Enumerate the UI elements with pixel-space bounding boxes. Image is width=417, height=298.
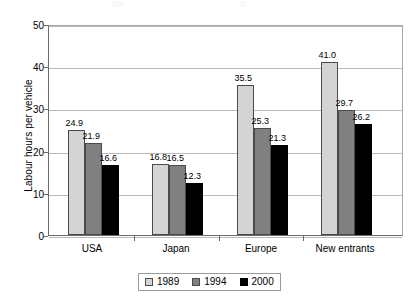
bar — [68, 130, 85, 235]
bar-value-label: 21.9 — [83, 131, 101, 141]
bar-value-label: 12.3 — [184, 171, 202, 181]
bar-chart-figure: Labour hours per vehicle 01020304050 24.… — [0, 0, 417, 298]
legend-swatch-icon — [192, 278, 200, 286]
y-tick-label-0: 0 — [4, 231, 44, 242]
y-tick-label-20: 20 — [4, 146, 44, 157]
bar-value-label: 26.2 — [353, 112, 371, 122]
x-tick-mark — [303, 236, 304, 241]
x-category-label: New entrants — [316, 243, 375, 254]
x-category-label: Europe — [245, 243, 277, 254]
legend-label: 1989 — [157, 276, 179, 287]
bar-value-label: 25.3 — [252, 116, 270, 126]
y-axis-ticks: 01020304050 — [0, 0, 44, 298]
legend-swatch-icon — [240, 278, 248, 286]
bar — [186, 183, 203, 235]
x-category-label: USA — [82, 243, 103, 254]
chart-legend: 198919942000 — [138, 273, 281, 291]
bar-value-label: 16.6 — [100, 153, 118, 163]
bar — [355, 124, 372, 235]
bar-value-label: 35.5 — [235, 73, 253, 83]
legend-item: 2000 — [240, 276, 274, 287]
bar — [254, 128, 271, 235]
bar-group: 35.525.321.3 — [237, 26, 288, 235]
bar — [152, 164, 169, 235]
bar-value-label: 24.9 — [66, 118, 84, 128]
y-tick-label-40: 40 — [4, 62, 44, 73]
legend-label: 1994 — [204, 276, 226, 287]
y-tick-label-30: 30 — [4, 104, 44, 115]
gridline-0 — [49, 237, 402, 238]
legend-label: 2000 — [252, 276, 274, 287]
y-tick-label-10: 10 — [4, 188, 44, 199]
bar — [237, 85, 254, 235]
bar — [102, 165, 119, 235]
bar — [338, 110, 355, 235]
bar-value-label: 16.5 — [167, 153, 185, 163]
bar — [271, 145, 288, 235]
bar-group: 16.816.512.3 — [152, 26, 203, 235]
x-tick-mark — [219, 236, 220, 241]
bar-value-label: 16.8 — [150, 152, 168, 162]
plot-area: 24.921.916.616.816.512.335.525.321.341.0… — [48, 25, 403, 236]
y-tick-label-50: 50 — [4, 20, 44, 31]
bar-group: 41.029.726.2 — [321, 26, 372, 235]
legend-swatch-icon — [145, 278, 153, 286]
bar-value-label: 21.3 — [269, 133, 287, 143]
bar-series-container: 24.921.916.616.816.512.335.525.321.341.0… — [49, 26, 402, 235]
bar-group: 24.921.916.6 — [68, 26, 119, 235]
bar — [321, 62, 338, 235]
x-tick-mark — [134, 236, 135, 241]
bar-value-label: 29.7 — [336, 98, 354, 108]
legend-item: 1989 — [145, 276, 179, 287]
bar-value-label: 41.0 — [319, 50, 337, 60]
legend-item: 1994 — [192, 276, 226, 287]
x-category-label: Japan — [162, 243, 189, 254]
scan-artifact-strip — [60, 1, 350, 7]
y-tick-mark-0 — [44, 236, 48, 237]
